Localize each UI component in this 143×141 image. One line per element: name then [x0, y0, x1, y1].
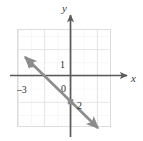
tick-label-origin: 0 — [61, 84, 66, 94]
data-point-marker — [28, 62, 33, 67]
coordinate-plane-figure: y x –3 0 1 2 — [0, 0, 143, 141]
tick-label-negative-three: –3 — [17, 85, 27, 95]
y-axis-label: y — [62, 3, 67, 14]
data-point-marker — [68, 99, 73, 104]
tick-label-y-intercept: 2 — [77, 101, 82, 111]
x-axis-label: x — [131, 73, 136, 84]
plot-area — [0, 0, 143, 141]
tick-label-y-unit: 1 — [60, 60, 65, 70]
grid — [18, 30, 111, 127]
